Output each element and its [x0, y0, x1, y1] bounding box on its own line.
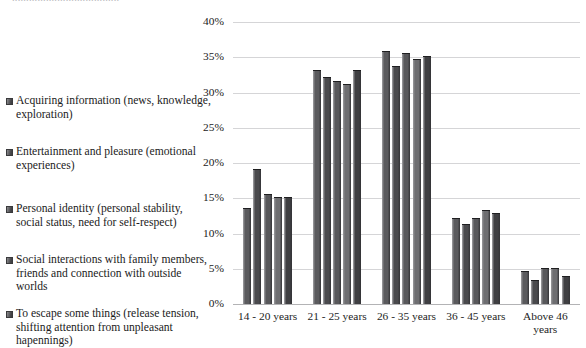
- x-axis-tick-label: 36 - 45 years: [438, 310, 513, 323]
- bar[interactable]: [323, 77, 331, 304]
- bar[interactable]: [284, 197, 292, 304]
- bar[interactable]: [274, 197, 282, 304]
- bar[interactable]: [413, 59, 421, 304]
- bar[interactable]: [423, 56, 431, 304]
- y-axis-tick-label: 40%: [188, 15, 224, 27]
- y-axis-tick-label: 35%: [188, 50, 224, 62]
- x-axis-tick-label: Above 46 years: [508, 310, 583, 336]
- y-axis-tick-label: 10%: [188, 227, 224, 239]
- bar[interactable]: [343, 84, 351, 304]
- x-axis-labels: 14 - 20 years21 - 25 years26 - 35 years3…: [233, 308, 586, 346]
- bar[interactable]: [551, 268, 559, 304]
- bar-group: [521, 22, 570, 304]
- bar[interactable]: [264, 194, 272, 304]
- bar-group: [452, 22, 501, 304]
- bar[interactable]: [402, 53, 410, 304]
- bar[interactable]: [521, 271, 529, 304]
- bar[interactable]: [482, 210, 490, 304]
- bar[interactable]: [462, 224, 470, 304]
- bar[interactable]: [492, 213, 500, 304]
- axis-baseline: [233, 304, 580, 305]
- bar[interactable]: [333, 81, 341, 304]
- y-axis-tick-label: 0%: [188, 297, 224, 309]
- bar[interactable]: [353, 70, 361, 304]
- y-axis-tick-label: 15%: [188, 191, 224, 203]
- bar[interactable]: [562, 276, 570, 304]
- y-axis-tick-label: 30%: [188, 86, 224, 98]
- bar[interactable]: [243, 208, 251, 304]
- x-axis-tick-label: 21 - 25 years: [299, 310, 374, 323]
- x-axis-tick-label: 26 - 35 years: [369, 310, 444, 323]
- bar[interactable]: [313, 70, 321, 304]
- bar[interactable]: [541, 268, 549, 304]
- bar[interactable]: [253, 169, 261, 304]
- y-axis-tick-label: 20%: [188, 156, 224, 168]
- x-axis-tick-label: 14 - 20 years: [230, 310, 305, 323]
- bar[interactable]: [382, 51, 390, 304]
- bar-group: [382, 22, 431, 304]
- bar-groups: [233, 22, 580, 304]
- y-axis-tick-label: 5%: [188, 262, 224, 274]
- bar[interactable]: [472, 218, 480, 304]
- bar[interactable]: [531, 280, 539, 304]
- bar-group: [243, 22, 292, 304]
- bar[interactable]: [452, 218, 460, 304]
- plot-area: [233, 22, 580, 304]
- y-axis-tick-label: 25%: [188, 121, 224, 133]
- bar[interactable]: [392, 66, 400, 304]
- bar-group: [313, 22, 362, 304]
